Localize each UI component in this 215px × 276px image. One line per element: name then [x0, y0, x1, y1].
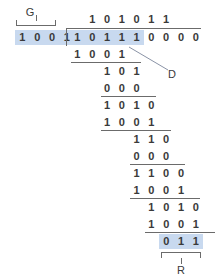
- digit-cell: 1: [144, 217, 159, 232]
- digit-cell: 0: [114, 115, 129, 130]
- subtrahend-5: 1001: [129, 183, 188, 198]
- digit-cell: 1: [15, 30, 30, 45]
- digit-cell: 0: [45, 30, 60, 45]
- digit-cell: 0: [129, 115, 144, 130]
- digit-cell: 0: [85, 47, 100, 62]
- partial-remainder-3: 110: [129, 132, 173, 147]
- digit-cell: 0: [144, 98, 159, 113]
- digit-cell: 1: [114, 12, 129, 27]
- remainder-row: 011: [159, 234, 203, 249]
- generator-label: G: [10, 6, 50, 18]
- partial-remainder-2: 1010: [100, 98, 159, 113]
- digit-cell: 0: [144, 183, 159, 198]
- digit-cell: 1: [129, 166, 144, 181]
- digit-cell: 0: [129, 149, 144, 164]
- digit-cell: 0: [159, 30, 174, 45]
- division-bar: [66, 28, 67, 46]
- digit-cell: 0: [129, 81, 144, 96]
- digit-cell: 0: [159, 217, 174, 232]
- digit-cell: 1: [144, 12, 159, 27]
- partial-remainder-4: 1100: [129, 166, 188, 181]
- digit-cell: 0: [144, 149, 159, 164]
- digit-cell: 1: [188, 217, 203, 232]
- digit-cell: 0: [174, 166, 189, 181]
- digit-cell: 1: [144, 132, 159, 147]
- digit-cell: 1: [129, 64, 144, 79]
- digit-cell: 1: [114, 30, 129, 45]
- digit-cell: 1: [100, 115, 115, 130]
- digit-cell: 0: [159, 200, 174, 215]
- generator-bracket-stem: [36, 15, 37, 21]
- digit-cell: 1: [70, 30, 85, 45]
- digit-cell: 0: [129, 12, 144, 27]
- subtrahend-4: 000: [129, 149, 173, 164]
- digit-cell: 0: [174, 30, 189, 45]
- digit-cell: 1: [174, 183, 189, 198]
- digit-cell: 1: [114, 47, 129, 62]
- digit-cell: 1: [159, 12, 174, 27]
- digit-cell: 1: [174, 234, 189, 249]
- digit-cell: 1: [188, 234, 203, 249]
- digit-cell: 0: [100, 47, 115, 62]
- subtrahend-3: 1001: [100, 115, 159, 130]
- vinculum-rule: [66, 28, 201, 29]
- subtrahend-2-rule: [101, 96, 156, 97]
- quotient-row: 101011: [85, 12, 174, 27]
- remainder-label: R: [171, 264, 191, 276]
- digit-cell: 1: [144, 200, 159, 215]
- dividend-row: 101110000: [70, 30, 203, 45]
- dividend-label: D: [168, 68, 188, 80]
- subtrahend-6: 1001: [144, 217, 203, 232]
- digit-cell: 0: [144, 30, 159, 45]
- subtrahend-1-rule: [71, 62, 141, 63]
- digit-cell: 1: [100, 98, 115, 113]
- digit-cell: 0: [159, 183, 174, 198]
- digit-cell: 1: [144, 115, 159, 130]
- digit-cell: 0: [114, 64, 129, 79]
- digit-cell: 0: [30, 30, 45, 45]
- subtrahend-3-rule: [101, 130, 171, 131]
- digit-cell: 0: [159, 149, 174, 164]
- subtrahend-5-rule: [130, 198, 200, 199]
- digit-cell: 1: [100, 30, 115, 45]
- digit-cell: 0: [188, 200, 203, 215]
- digit-cell: 1: [129, 183, 144, 198]
- digit-cell: 0: [159, 166, 174, 181]
- digit-cell: 0: [188, 30, 203, 45]
- digit-cell: 1: [144, 166, 159, 181]
- digit-cell: 0: [100, 12, 115, 27]
- subtrahend-6-rule: [145, 232, 215, 233]
- digit-cell: 0: [114, 98, 129, 113]
- subtrahend-1: 1001: [70, 47, 129, 62]
- digit-cell: 0: [100, 81, 115, 96]
- digit-cell: 0: [159, 132, 174, 147]
- digit-cell: 1: [129, 98, 144, 113]
- digit-cell: 0: [85, 30, 100, 45]
- digit-cell: 1: [129, 132, 144, 147]
- subtrahend-4-rule: [130, 164, 185, 165]
- digit-cell: 1: [100, 64, 115, 79]
- digit-cell: 1: [174, 200, 189, 215]
- digit-cell: 0: [114, 81, 129, 96]
- partial-remainder-5: 1010: [144, 200, 203, 215]
- subtrahend-2: 000: [100, 81, 144, 96]
- digit-cell: 0: [159, 234, 174, 249]
- digit-cell: 1: [129, 30, 144, 45]
- digit-cell: 1: [85, 12, 100, 27]
- digit-cell: 1: [70, 47, 85, 62]
- partial-remainder-1: 101: [100, 64, 144, 79]
- digit-cell: 0: [174, 217, 189, 232]
